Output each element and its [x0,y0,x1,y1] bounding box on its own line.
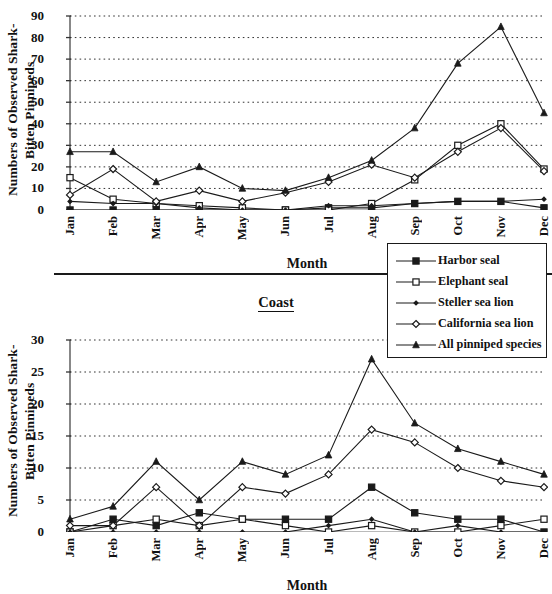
x-tick-label-aug: Aug [365,538,380,560]
data-point-marker-filled-square [282,516,288,522]
y-tick-label: 30 [31,332,44,348]
legend-item: Steller sea lion [388,292,546,313]
x-tick-label-sep: Sep [408,538,423,557]
data-point-marker-open-diamond [67,191,74,198]
legend: Harbor sealElephant sealSteller sea lion… [387,243,547,358]
legend-item: California sea lion [388,313,546,334]
series-line [70,124,544,210]
legend-marker-open-diamond [394,317,438,331]
series-line [70,128,544,201]
data-point-marker-filled-square [153,207,159,210]
data-point-marker-filled-square [196,510,202,516]
data-point-marker-filled-diamond [154,530,158,532]
y-tick-label-group: 9080706050403020100 [10,10,44,210]
x-tick-label-mar: Mar [149,216,164,240]
y-tick-label: 5 [38,492,45,508]
y-tick-label: 15 [31,428,44,444]
x-tick-label-aug: Aug [365,216,380,238]
data-point-marker-filled-square [498,516,504,522]
y-tick-label: 25 [31,364,44,380]
chart-panel-bottom: Numbers of Observed Shark- Bitten Pinnip… [0,322,552,586]
data-point-marker-open-diamond [67,522,74,529]
data-point-marker-filled-square [413,257,419,263]
data-point-marker-open-square [455,529,461,532]
data-point-marker-filled-diamond [111,530,115,532]
data-point-marker-open-square [541,516,547,522]
data-point-marker-filled-diamond [111,202,115,206]
x-tick-label-nov: Nov [494,216,509,238]
chart-svg [48,334,548,532]
x-tick-label-apr: Apr [192,216,207,238]
legend-label: Harbor seal [438,253,500,268]
x-tick-label-mar: Mar [149,538,164,562]
y-tick-label: 0 [38,524,45,540]
x-tick-label-jul: Jul [322,216,337,233]
data-point-marker-filled-triangle [196,496,203,503]
y-tick-label: 10 [31,180,44,196]
series-line [70,199,544,210]
data-point-marker-filled-triangle [541,109,548,116]
y-tick-label: 60 [31,73,44,89]
y-tick-label: 10 [31,460,44,476]
data-point-marker-filled-triangle [455,60,462,67]
data-point-marker-filled-diamond [197,530,201,532]
legend-marker-open-square [394,275,438,289]
series-line [70,27,544,191]
data-point-marker-filled-diamond [370,517,374,521]
x-tick-label-oct: Oct [451,538,466,557]
plot-area-bottom: 302520151050JanFebMarAprMayJunJulAugSepO… [48,334,548,532]
data-point-marker-filled-triangle [325,451,332,458]
series-line [70,359,544,519]
data-point-marker-filled-square [412,510,418,516]
data-point-marker-filled-diamond [370,204,374,208]
data-point-marker-open-diamond [411,439,418,446]
data-point-marker-filled-triangle [196,163,203,170]
x-tick-label-dec: Dec [537,538,552,558]
data-point-marker-open-diamond [454,148,461,155]
y-tick-label: 40 [31,116,44,132]
x-tick-label-feb: Feb [106,216,121,236]
legend-item: All pinniped species [388,334,546,355]
data-point-marker-open-diamond [282,490,289,497]
data-point-marker-filled-diamond [197,206,201,210]
data-point-marker-filled-diamond [499,199,503,203]
series-line [70,487,544,532]
data-point-marker-filled-square [369,484,375,490]
data-point-marker-filled-diamond [327,524,331,528]
y-tick-label: 20 [31,396,44,412]
data-point-marker-filled-triangle [239,185,246,192]
data-point-marker-filled-square [153,523,159,529]
data-point-marker-open-square [239,516,245,522]
coast-section-label-text: Coast [258,294,293,312]
y-tick-label: 50 [31,94,44,110]
data-point-marker-open-square [153,516,159,522]
data-point-marker-filled-square [110,207,116,210]
x-tick-label-may: May [235,216,250,240]
data-point-marker-filled-diamond [327,204,331,208]
data-point-marker-open-square [282,523,288,529]
series-line [70,201,544,210]
data-point-marker-filled-diamond [456,199,460,203]
data-point-marker-open-diamond [454,465,461,472]
data-point-marker-open-square [67,175,73,181]
y-tick-label: 0 [38,202,45,218]
data-point-marker-filled-diamond [414,301,418,305]
data-point-marker-filled-square [455,516,461,522]
data-point-marker-filled-square [67,207,73,210]
legend-label: California sea lion [438,316,533,331]
data-point-marker-filled-diamond [240,530,244,532]
x-axis-title: Month [70,578,544,594]
data-point-marker-open-square [369,523,375,529]
y-tick-label-group: 302520151050 [10,334,44,532]
x-tick-label-jun: Jun [278,538,293,558]
y-tick-label: 20 [31,159,44,175]
data-point-marker-open-square [413,278,419,284]
data-point-marker-filled-square [325,516,331,522]
data-point-marker-filled-triangle [498,23,505,30]
series-line [70,519,544,532]
data-point-marker-open-diamond [196,187,203,194]
data-point-marker-open-diamond [497,477,504,484]
y-tick-label: 80 [31,30,44,46]
chart-panel-top: Numbers of Observed Shark- Bitten Pinnip… [0,0,552,262]
y-tick-label: 90 [31,8,44,24]
